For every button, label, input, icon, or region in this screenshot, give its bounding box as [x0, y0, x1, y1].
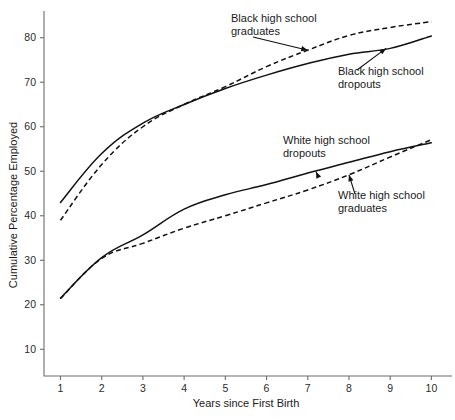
y-axis-title: Cumulative Percentage Employed	[7, 122, 19, 288]
y-tick-label: 60	[24, 120, 36, 132]
annotation-label-0: Black high school	[231, 12, 317, 24]
annotation-arrowhead-3	[348, 175, 353, 182]
y-tick-label: 50	[24, 165, 36, 177]
x-tick-label: 6	[264, 382, 270, 394]
annotation-label2-2: dropouts	[283, 147, 326, 159]
chart-container: 1020304050607080 12345678910 Black high …	[0, 0, 455, 420]
series-line-2	[60, 143, 431, 298]
series-line-3	[60, 140, 431, 299]
y-tick-label: 70	[24, 76, 36, 88]
y-tick-label: 10	[24, 343, 36, 355]
data-series	[60, 22, 431, 299]
x-tick-label: 5	[222, 382, 228, 394]
annotation-label-2: White high school	[283, 134, 370, 146]
x-tick-label: 9	[387, 382, 393, 394]
x-tick-label: 10	[426, 382, 438, 394]
y-axis-ticks: 1020304050607080	[24, 31, 44, 355]
annotation-label2-3: graduates	[338, 202, 387, 214]
x-tick-label: 3	[140, 382, 146, 394]
x-tick-label: 7	[305, 382, 311, 394]
annotation-label-3: White high school	[338, 189, 425, 201]
x-tick-label: 8	[346, 382, 352, 394]
annotation-arrowhead-2	[316, 172, 321, 179]
x-axis-title: Years since First Birth	[193, 397, 300, 409]
y-tick-label: 30	[24, 254, 36, 266]
annotation-label2-1: dropouts	[338, 78, 381, 90]
line-chart-plot: 1020304050607080 12345678910 Black high …	[0, 0, 455, 420]
y-tick-label: 80	[24, 31, 36, 43]
x-tick-label: 4	[181, 382, 187, 394]
y-tick-label: 20	[24, 298, 36, 310]
x-tick-label: 1	[58, 382, 64, 394]
series-line-1	[60, 36, 431, 202]
x-axis-ticks: 12345678910	[58, 376, 438, 394]
annotation-leader-0	[253, 37, 308, 50]
y-tick-label: 40	[24, 209, 36, 221]
annotation-label-1: Black high school	[338, 65, 424, 77]
annotation-label2-0: graduates	[231, 25, 280, 37]
x-tick-label: 2	[99, 382, 105, 394]
